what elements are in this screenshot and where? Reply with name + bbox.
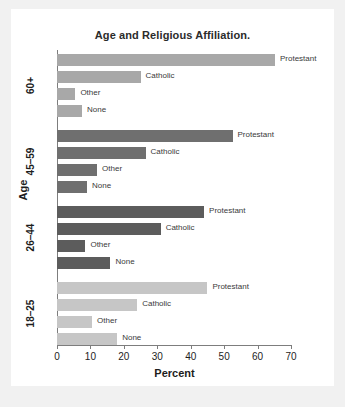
x-axis-title: Percent [57, 367, 292, 379]
x-axis-tick-label: 20 [112, 351, 136, 362]
bar-value-label: Other [80, 87, 100, 99]
y-axis-tick-label: 18–25 [25, 290, 36, 336]
x-axis-tick [124, 345, 125, 349]
x-axis-tick [258, 345, 259, 349]
y-axis-tick-label: 45–59 [25, 138, 36, 184]
bar[interactable] [57, 181, 87, 193]
x-axis-tick-label: 10 [78, 351, 102, 362]
bar-value-label: Catholic [151, 146, 180, 158]
x-axis-tick-label: 0 [45, 351, 69, 362]
bar[interactable] [57, 257, 110, 269]
x-axis-tick [57, 345, 58, 349]
x-axis-tick [157, 345, 158, 349]
bar-value-label: Other [102, 163, 122, 175]
y-axis-tick-label: 26–44 [25, 214, 36, 260]
bar[interactable] [57, 130, 233, 142]
bar-value-label: Other [90, 239, 110, 251]
bar-value-label: Catholic [146, 70, 175, 82]
x-axis-tick [224, 345, 225, 349]
bar[interactable] [57, 299, 137, 311]
bar[interactable] [57, 240, 85, 252]
x-axis-tick-label: 70 [279, 351, 303, 362]
bar-value-label: Catholic [166, 222, 195, 234]
bar[interactable] [57, 333, 117, 345]
bar-value-label: Protestant [238, 129, 274, 141]
x-axis-tick-label: 60 [246, 351, 270, 362]
bar[interactable] [57, 147, 146, 159]
bar[interactable] [57, 316, 92, 328]
bar[interactable] [57, 223, 161, 235]
bar-value-label: Protestant [212, 281, 248, 293]
bar-value-label: Catholic [142, 298, 171, 310]
bar-value-label: Protestant [209, 205, 245, 217]
bar[interactable] [57, 164, 97, 176]
bar-value-label: None [87, 104, 106, 116]
plot-area: ProtestantCatholicOtherNoneProtestantCat… [57, 50, 291, 344]
bar[interactable] [57, 88, 75, 100]
y-axis-tick-label: 60+ [25, 62, 36, 108]
bar[interactable] [57, 206, 204, 218]
bar[interactable] [57, 71, 141, 83]
x-axis-tick-label: 30 [145, 351, 169, 362]
bar-value-label: None [92, 180, 111, 192]
x-axis-tick [291, 345, 292, 349]
bar[interactable] [57, 282, 207, 294]
x-axis-tick-label: 40 [179, 351, 203, 362]
bar-value-label: None [115, 256, 134, 268]
x-axis-tick-label: 50 [212, 351, 236, 362]
bar-value-label: Protestant [280, 53, 316, 65]
x-axis-tick [90, 345, 91, 349]
bar[interactable] [57, 105, 82, 117]
x-axis-tick [191, 345, 192, 349]
bar[interactable] [57, 54, 275, 66]
chart-title: Age and Religious Affiliation. [11, 29, 334, 41]
chart-figure-card: Age and Religious Affiliation. Protestan… [11, 9, 334, 386]
bar-value-label: Other [97, 315, 117, 327]
bar-value-label: None [122, 332, 141, 344]
